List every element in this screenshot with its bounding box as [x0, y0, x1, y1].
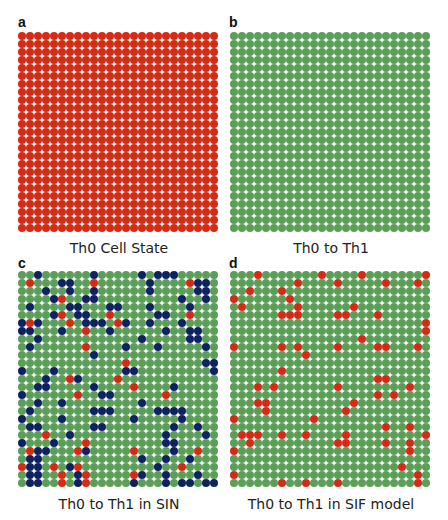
cell-dot	[146, 359, 154, 367]
cell-dot	[170, 327, 178, 335]
cell-dot	[42, 112, 50, 120]
cell-dot	[178, 471, 186, 479]
cell-dot	[278, 455, 286, 463]
cell-dot	[270, 423, 278, 431]
cell-dot	[262, 128, 270, 136]
cell-dot	[82, 88, 90, 96]
cell-dot	[286, 415, 294, 423]
cell-dot	[26, 32, 34, 40]
cell-dot	[366, 64, 374, 72]
cell-dot	[278, 88, 286, 96]
cell-dot	[146, 152, 154, 160]
cell-dot	[318, 152, 326, 160]
cell-dot	[202, 104, 210, 112]
cell-dot	[74, 383, 82, 391]
cell-dot	[334, 168, 342, 176]
cell-dot	[326, 327, 334, 335]
cell-dot	[58, 112, 66, 120]
cell-dot	[178, 80, 186, 88]
cell-dot	[318, 447, 326, 455]
cell-dot	[286, 335, 294, 343]
cell-dot	[254, 303, 262, 311]
cell-dot	[326, 303, 334, 311]
cell-dot	[358, 279, 366, 287]
cell-dot	[358, 423, 366, 431]
cell-dot	[186, 144, 194, 152]
cell-dot	[106, 439, 114, 447]
cell-dot	[50, 399, 58, 407]
cell-dot	[254, 319, 262, 327]
cell-dot	[66, 208, 74, 216]
cell-dot	[350, 327, 358, 335]
cell-dot	[138, 343, 146, 351]
cell-dot	[154, 319, 162, 327]
cell-dot	[302, 303, 310, 311]
cell-dot	[74, 112, 82, 120]
cell-dot	[238, 439, 246, 447]
cell-dot	[98, 128, 106, 136]
cell-dot	[310, 375, 318, 383]
cell-dot	[302, 152, 310, 160]
cell-dot	[318, 319, 326, 327]
cell-dot	[334, 399, 342, 407]
cell-dot	[406, 168, 414, 176]
cell-dot	[318, 224, 326, 232]
cell-dot	[202, 279, 210, 287]
cell-dot	[90, 279, 98, 287]
cell-dot	[382, 128, 390, 136]
cell-dot	[278, 40, 286, 48]
cell-dot	[66, 200, 74, 208]
cell-dot	[398, 295, 406, 303]
cell-dot	[106, 200, 114, 208]
cell-dot	[122, 176, 130, 184]
cell-dot	[90, 455, 98, 463]
cell-dot	[186, 208, 194, 216]
cell-dot	[262, 295, 270, 303]
cell-dot	[254, 311, 262, 319]
cell-dot	[186, 64, 194, 72]
cell-dot	[114, 479, 122, 487]
cell-dot	[82, 72, 90, 80]
cell-dot	[122, 32, 130, 40]
cell-dot	[366, 447, 374, 455]
cell-dot	[422, 168, 430, 176]
cell-dot	[310, 152, 318, 160]
cell-dot	[34, 144, 42, 152]
cell-dot	[122, 216, 130, 224]
cell-dot	[398, 136, 406, 144]
cell-dot	[202, 399, 210, 407]
cell-dot	[238, 104, 246, 112]
cell-dot	[34, 120, 42, 128]
cell-dot	[390, 64, 398, 72]
cell-dot	[334, 184, 342, 192]
cell-dot	[254, 351, 262, 359]
cell-dot	[162, 471, 170, 479]
cell-dot	[154, 407, 162, 415]
cell-dot	[74, 471, 82, 479]
cell-dot	[358, 399, 366, 407]
cell-dot	[170, 48, 178, 56]
cell-dot	[170, 80, 178, 88]
cell-dot	[130, 319, 138, 327]
cell-dot	[414, 224, 422, 232]
cell-dot	[286, 184, 294, 192]
cell-dot	[366, 48, 374, 56]
cell-dot	[186, 367, 194, 375]
cell-dot	[98, 104, 106, 112]
cell-dot	[310, 319, 318, 327]
cell-dot	[186, 471, 194, 479]
cell-dot	[194, 311, 202, 319]
cell-dot	[34, 216, 42, 224]
cell-dot	[238, 383, 246, 391]
cell-dot	[42, 319, 50, 327]
cell-dot	[334, 447, 342, 455]
cell-dot	[374, 160, 382, 168]
cell-dot	[358, 455, 366, 463]
cell-dot	[262, 136, 270, 144]
cell-dot	[42, 375, 50, 383]
cell-dot	[122, 367, 130, 375]
cell-dot	[390, 471, 398, 479]
cell-dot	[286, 64, 294, 72]
cell-dot	[270, 271, 278, 279]
cell-dot	[122, 152, 130, 160]
